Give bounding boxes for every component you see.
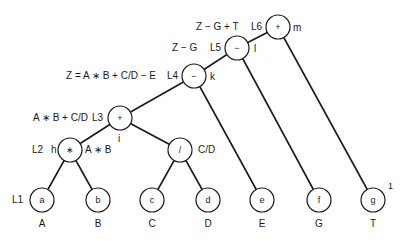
id-k: k (210, 71, 215, 83)
operand-A: A (30, 219, 54, 229)
operand-B: B (86, 219, 110, 229)
leaf-f-label: f (307, 195, 331, 205)
leaf-a-label: a (30, 195, 54, 205)
node-k-op: − (182, 71, 206, 81)
level-L1: L1 (12, 194, 23, 206)
level-L5: L5 (210, 42, 221, 54)
node-m-op: + (266, 22, 290, 32)
expr-div: C/D (198, 144, 215, 156)
expr-m: Z − G + T (196, 21, 239, 33)
footnote-marker: 1 (388, 180, 393, 192)
id-i: i (118, 133, 120, 145)
operand-D: D (196, 219, 220, 229)
id-m: m (293, 22, 301, 34)
leaf-c-label: c (140, 195, 164, 205)
operand-T: T (361, 219, 385, 229)
operand-C: C (140, 219, 164, 229)
id-l: l (254, 43, 256, 55)
level-L2: L2 (32, 144, 43, 156)
leaf-b-label: b (86, 195, 110, 205)
node-h-op: ∗ (58, 145, 82, 155)
level-L3: L3 (92, 112, 103, 124)
leaf-g-label: g (361, 195, 385, 205)
operand-E: E (250, 219, 274, 229)
operand-G: G (307, 219, 331, 229)
expr-i: A ∗ B + C/D (33, 112, 88, 124)
leaf-d-label: d (196, 195, 220, 205)
level-L4: L4 (167, 70, 178, 82)
expr-k: Z = A ∗ B + C/D − E (66, 70, 156, 82)
leaf-e-label: e (250, 195, 274, 205)
node-div-op: / (168, 145, 192, 155)
expr-h: A ∗ B (85, 144, 111, 156)
node-i-op: + (108, 113, 132, 123)
node-l-op: − (225, 43, 249, 53)
expr-l: Z − G (172, 42, 197, 54)
id-h: h (51, 144, 57, 156)
level-L6: L6 (251, 21, 262, 33)
